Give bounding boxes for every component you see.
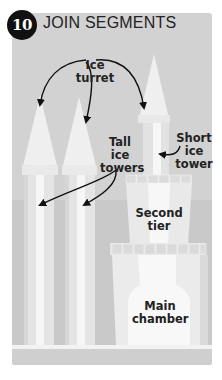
label-line: tier bbox=[134, 220, 184, 233]
label-ice-turret: Ice turret bbox=[72, 59, 118, 85]
label-line: chamber bbox=[132, 313, 188, 326]
label-second-tier: Second tier bbox=[134, 207, 184, 233]
main-chamber bbox=[110, 243, 208, 345]
label-tall-ice-towers: Tall ice towers bbox=[100, 136, 140, 175]
ice-turret-right bbox=[138, 54, 170, 123]
label-line: tower bbox=[174, 158, 214, 171]
label-short-ice-tower: Short ice tower bbox=[174, 132, 214, 171]
base-plate bbox=[12, 349, 212, 365]
ice-turret-middle bbox=[62, 97, 97, 170]
base-highlight bbox=[12, 345, 212, 349]
step-title: JOIN SEGMENTS bbox=[43, 14, 176, 32]
label-main-chamber: Main chamber bbox=[132, 300, 188, 326]
step-number-badge: 10 bbox=[7, 10, 37, 40]
ice-turret-left bbox=[22, 95, 58, 170]
tall-ice-tower-left bbox=[22, 95, 58, 345]
tall-ice-tower-middle bbox=[62, 97, 97, 345]
label-line: turret bbox=[72, 72, 118, 85]
label-line: towers bbox=[100, 162, 140, 175]
castle-illustration bbox=[0, 0, 222, 380]
